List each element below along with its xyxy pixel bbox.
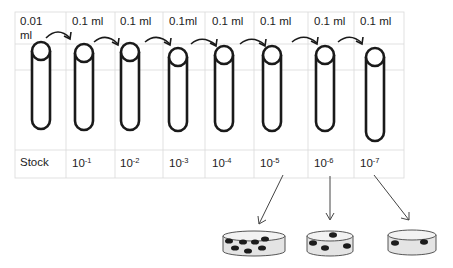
dilution-label-10-1: 10-1 — [72, 156, 91, 169]
volume-unit: ml — [20, 28, 42, 42]
volume-label-10-2: 0.1 ml — [120, 14, 151, 28]
petri-dish-10-7 — [388, 230, 436, 255]
dilution-label-10-2: 10-2 — [120, 156, 139, 169]
volume-label-10-5: 0.1 ml — [260, 14, 291, 28]
dilution-label-10-7: 10-7 — [360, 156, 379, 169]
diagram-canvas — [0, 0, 453, 268]
volume-label-10-7: 0.1 ml — [360, 14, 391, 28]
dilution-label-10-5: 10-5 — [260, 156, 279, 169]
tube-10-4 — [215, 46, 233, 131]
volume-value: 0.01 — [20, 14, 42, 28]
dilution-label-10-3: 10-3 — [169, 156, 188, 169]
transfer-arrow-icon — [191, 39, 217, 46]
volume-label-stock: 0.01 ml — [20, 14, 42, 42]
petri-dish-10-6 — [307, 231, 353, 256]
table-grid — [15, 12, 404, 178]
volume-label-10-1: 0.1 ml — [72, 14, 103, 28]
transfer-arrow-icon — [46, 32, 71, 39]
volume-label-10-4: 0.1 ml — [212, 14, 243, 28]
transfer-arrow-icon — [338, 37, 363, 44]
tube-10-7 — [366, 48, 384, 141]
tube-10-6 — [316, 46, 334, 131]
tube-10-3 — [169, 48, 187, 131]
serial-dilution-diagram: 0.01 ml 0.1 ml 0.1 ml 0.1ml 0.1 ml 0.1 m… — [0, 0, 453, 268]
plating-arrows — [258, 175, 409, 224]
dilution-label-stock: Stock — [20, 156, 49, 168]
dilution-label-10-6: 10-6 — [314, 156, 333, 169]
test-tubes — [32, 42, 384, 141]
volume-label-10-3: 0.1ml — [169, 14, 197, 28]
petri-dish-10-5 — [223, 231, 285, 256]
plating-arrow-icon — [374, 175, 409, 220]
tube-10-5 — [263, 46, 281, 131]
plating-arrow-icon — [258, 175, 283, 224]
tube-10-1 — [75, 44, 93, 130]
transfer-arrow-icon — [292, 37, 318, 44]
tube-stock — [32, 42, 50, 129]
plating-arrow-icon — [326, 176, 334, 220]
tube-10-2 — [121, 43, 139, 130]
volume-label-10-6: 0.1 ml — [314, 14, 345, 28]
dilution-label-10-4: 10-4 — [212, 156, 231, 169]
transfer-arrow-icon — [240, 39, 266, 46]
